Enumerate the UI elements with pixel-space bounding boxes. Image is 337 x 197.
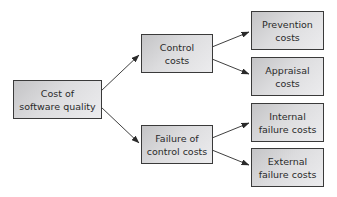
node-failure-of-control-costs: Failure of control costs: [141, 125, 213, 164]
node-appraisal-costs: Appraisal costs: [251, 57, 324, 96]
arrow-failure-to-internal: [212, 123, 249, 138]
arrow-failure-to-external: [212, 150, 249, 165]
node-external-failure-costs: External failure costs: [251, 148, 324, 187]
node-label: External failure costs: [259, 155, 317, 181]
arrow-control-to-prevention: [212, 32, 249, 47]
node-label: Cost of software quality: [19, 87, 95, 113]
node-label: Appraisal costs: [265, 64, 309, 90]
arrow-root-to-control: [101, 55, 139, 91]
node-label: Prevention costs: [262, 18, 313, 44]
node-label: Failure of control costs: [147, 132, 208, 158]
node-cost-of-software-quality: Cost of software quality: [13, 80, 102, 119]
node-internal-failure-costs: Internal failure costs: [251, 103, 324, 142]
node-prevention-costs: Prevention costs: [251, 11, 324, 50]
arrow-control-to-appraisal: [212, 59, 249, 74]
node-control-costs: Control costs: [141, 34, 213, 73]
node-label: Internal failure costs: [259, 110, 317, 136]
node-label: Control costs: [160, 41, 194, 67]
arrow-root-to-failure: [101, 107, 139, 143]
